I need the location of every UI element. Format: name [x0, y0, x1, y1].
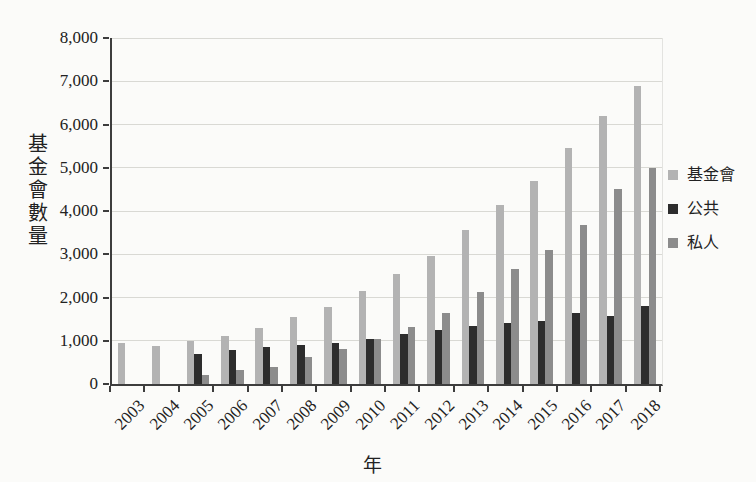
bar-series3-2008: [305, 357, 313, 384]
bar-series2-2013: [469, 326, 477, 384]
bar-series1-2005: [187, 341, 195, 384]
y-axis-title: 基金會數量: [22, 133, 51, 248]
bar-series1-2016: [565, 148, 573, 384]
gridline: [112, 38, 662, 39]
bar-series2-2010: [366, 339, 374, 384]
bar-series1-2012: [427, 256, 435, 384]
x-tick-mark: [247, 386, 249, 392]
bar-series2-2007: [263, 347, 271, 384]
bar-series1-2014: [496, 205, 504, 384]
bar-series3-2013: [477, 292, 485, 384]
bar-series1-2015: [530, 181, 538, 384]
x-tick-mark: [453, 386, 455, 392]
legend-swatch-icon: [668, 238, 678, 248]
bar-series1-2018: [634, 86, 642, 384]
bar-series2-2018: [641, 306, 649, 384]
legend-item-1: 基金會: [668, 165, 735, 184]
x-tick-mark: [178, 386, 180, 392]
x-tick-mark: [281, 386, 283, 392]
bar-series2-2016: [572, 313, 580, 384]
y-tick-label: 8,000: [28, 29, 98, 47]
y-tick-mark: [103, 340, 109, 342]
y-tick-label: 0: [28, 375, 98, 393]
bar-series1-2003: [118, 343, 126, 384]
bar-series1-2006: [221, 336, 229, 384]
y-tick-mark: [103, 167, 109, 169]
bar-series1-2007: [255, 328, 263, 384]
y-tick-label: 1,000: [28, 332, 98, 350]
bar-series3-2018: [649, 168, 657, 384]
legend-swatch-icon: [668, 170, 678, 180]
y-tick-mark: [103, 37, 109, 39]
x-tick-mark: [350, 386, 352, 392]
x-tick-mark: [659, 386, 661, 392]
x-tick-mark: [625, 386, 627, 392]
gridline: [112, 124, 662, 125]
x-tick-mark: [487, 386, 489, 392]
legend-item-3: 私人: [668, 233, 735, 252]
legend-item-2: 公共: [668, 199, 735, 218]
y-tick-label: 4,000: [28, 202, 98, 220]
bar-series2-2017: [607, 316, 615, 384]
legend-label: 公共: [687, 199, 719, 218]
legend-swatch-icon: [668, 204, 678, 214]
legend: 基金會公共私人: [668, 165, 735, 267]
y-tick-label: 5,000: [28, 159, 98, 177]
bar-series2-2015: [538, 321, 546, 384]
x-tick-mark: [522, 386, 524, 392]
y-tick-mark: [103, 80, 109, 82]
bar-series3-2016: [580, 225, 588, 384]
x-tick-mark: [315, 386, 317, 392]
bar-series1-2011: [393, 274, 401, 384]
legend-label: 私人: [687, 233, 719, 252]
x-tick-mark: [418, 386, 420, 392]
y-tick-label: 3,000: [28, 245, 98, 263]
bar-series2-2008: [297, 345, 305, 384]
bar-series3-2014: [511, 269, 519, 384]
x-tick-mark: [590, 386, 592, 392]
bar-series3-2007: [270, 367, 278, 384]
bar-series3-2012: [442, 313, 450, 384]
x-tick-mark: [109, 386, 111, 392]
y-tick-mark: [103, 253, 109, 255]
x-tick-mark: [143, 386, 145, 392]
bar-series2-2014: [504, 323, 512, 384]
x-tick-mark: [212, 386, 214, 392]
x-tick-mark: [384, 386, 386, 392]
y-tick-mark: [103, 124, 109, 126]
gridline: [112, 167, 662, 168]
bar-series1-2017: [599, 116, 607, 384]
bar-series1-2004: [152, 346, 160, 384]
chart-page: 基金會數量 01,0002,0003,0004,0005,0006,0007,0…: [0, 0, 756, 482]
y-tick-label: 6,000: [28, 116, 98, 134]
x-axis-title: 年: [352, 450, 392, 477]
y-tick-mark: [103, 383, 109, 385]
gridline: [112, 211, 662, 212]
bar-series2-2005: [194, 354, 202, 384]
plot-area: [110, 38, 663, 386]
bar-series3-2015: [545, 250, 553, 384]
gridline: [112, 81, 662, 82]
bar-series3-2010: [374, 339, 382, 384]
bar-series2-2011: [400, 334, 408, 384]
bar-series2-2009: [332, 343, 340, 384]
bar-series1-2009: [324, 307, 332, 384]
bar-series1-2013: [462, 230, 470, 384]
x-tick-mark: [556, 386, 558, 392]
bar-series2-2006: [229, 350, 237, 384]
bar-series2-2012: [435, 330, 443, 384]
y-tick-label: 2,000: [28, 289, 98, 307]
y-tick-mark: [103, 297, 109, 299]
bar-series1-2008: [290, 317, 298, 384]
bar-series3-2017: [614, 189, 622, 384]
bar-series3-2006: [236, 370, 244, 384]
legend-label: 基金會: [687, 165, 735, 184]
bar-series3-2009: [339, 349, 347, 384]
bar-series3-2005: [202, 375, 210, 385]
bar-series3-2011: [408, 327, 416, 384]
bar-series1-2010: [359, 291, 367, 384]
y-tick-mark: [103, 210, 109, 212]
y-tick-label: 7,000: [28, 72, 98, 90]
